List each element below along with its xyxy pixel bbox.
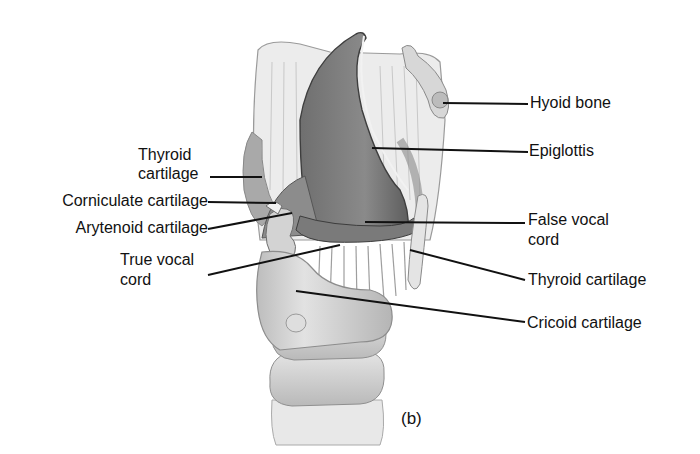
label-thyroid-cartilage-right: Thyroid cartilage [528,270,646,289]
label-cricoid-cartilage: Cricoid cartilage [527,313,642,332]
label-epiglottis: Epiglottis [529,141,594,160]
leader-hyoid-bone [443,103,528,104]
label-true-vocal-cord-line2: cord [120,270,151,289]
label-true-vocal-cord-line1: True vocal [120,250,194,269]
label-false-vocal-cord-line1: False vocal [528,210,609,229]
leader-false-vocal-cord [365,222,525,223]
leader-corniculate-cartilage [208,202,276,203]
label-false-vocal-cord-line2: cord [528,230,559,249]
leader-thyroid-cartilage-right [410,250,525,280]
label-hyoid-bone: Hyoid bone [530,93,611,112]
label-thyroid-cartilage-left-line2: cartilage [138,164,198,183]
label-corniculate-cartilage: Corniculate cartilage [62,191,208,210]
larynx-diagram: Hyoid bone Epiglottis Thyroid cartilage … [0,0,700,454]
label-arytenoid-cartilage: Arytenoid cartilage [75,218,208,237]
panel-label: (b) [401,409,422,428]
label-thyroid-cartilage-left-line1: Thyroid [138,145,191,164]
